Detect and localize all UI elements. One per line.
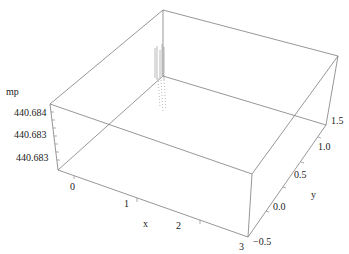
- x-tick-label: 3: [239, 241, 244, 252]
- x-tick-label: 0: [70, 181, 75, 192]
- y-tick-label: 0.0: [273, 201, 286, 212]
- plot-3d: mp 440.684 440.683 440.683 0 1 2 3 x −0.…: [0, 0, 349, 254]
- x-axis-label: x: [143, 218, 148, 229]
- x-tick-label: 2: [176, 220, 181, 231]
- z-axis-ticks: [51, 112, 60, 160]
- x-tick-label: 1: [124, 198, 129, 209]
- y-tick-label: −0.5: [253, 236, 271, 247]
- x-axis-ticks: [74, 176, 200, 224]
- y-tick-label: 0.5: [294, 169, 307, 180]
- z-tick-label: 440.684: [14, 107, 47, 118]
- z-axis-label: mp: [6, 86, 19, 97]
- y-axis-label: y: [311, 189, 316, 200]
- z-tick-label: 440.683: [14, 129, 47, 140]
- bounding-box: [50, 10, 338, 237]
- z-tick-label: 440.683: [16, 152, 49, 163]
- y-tick-label: 1.5: [331, 115, 344, 126]
- y-tick-label: 1.0: [318, 141, 331, 152]
